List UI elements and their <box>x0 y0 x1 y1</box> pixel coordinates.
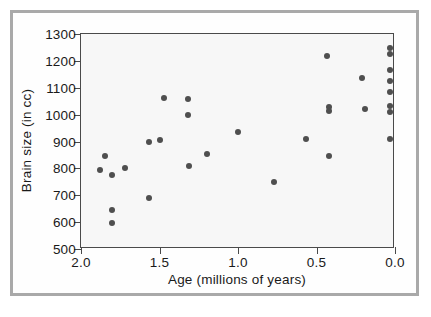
data-point <box>186 163 192 169</box>
y-axis-tick-label: 1000 <box>45 107 76 122</box>
y-axis-tick-label: 800 <box>53 161 76 176</box>
data-point <box>109 220 115 226</box>
data-point <box>204 151 210 157</box>
data-point <box>387 78 393 84</box>
data-point <box>185 96 191 102</box>
data-point <box>146 139 152 145</box>
y-axis-title: Brain size (in cc) <box>18 33 36 248</box>
y-axis-tick-label: 1100 <box>46 80 76 95</box>
data-point <box>362 106 368 112</box>
data-point <box>109 172 115 178</box>
x-axis-tick-label: 0.0 <box>385 255 404 270</box>
data-point <box>387 136 393 142</box>
data-point <box>387 109 393 115</box>
data-point <box>235 129 241 135</box>
data-point <box>157 137 163 143</box>
x-axis-tick <box>160 247 161 254</box>
data-point <box>303 136 309 142</box>
data-point <box>271 179 277 185</box>
y-axis-tick-label: 900 <box>53 134 76 149</box>
data-point <box>122 165 128 171</box>
data-points-layer <box>81 34 393 247</box>
data-point <box>97 167 103 173</box>
y-axis-title-text: Brain size (in cc) <box>20 89 35 192</box>
data-point <box>359 75 365 81</box>
y-axis-tick-label: 1200 <box>45 53 76 68</box>
x-axis-tick-label: 1.0 <box>228 255 247 270</box>
scatter-plot-figure: Brain size (in cc) 500600700800900100011… <box>0 0 431 317</box>
data-point <box>326 153 332 159</box>
data-point <box>387 89 393 95</box>
y-axis-tick-label: 700 <box>53 188 76 203</box>
x-axis-tick-label: 1.5 <box>150 255 169 270</box>
y-axis-tick-label: 600 <box>53 215 76 230</box>
data-point <box>109 207 115 213</box>
x-axis-tick-label: 2.0 <box>71 255 90 270</box>
data-point <box>387 67 393 73</box>
data-point <box>161 95 167 101</box>
data-point <box>146 195 152 201</box>
data-point <box>102 153 108 159</box>
x-axis-title: Age (millions of years) <box>80 272 394 287</box>
y-axis-tick-label: 1300 <box>45 27 76 42</box>
x-axis-tick <box>81 247 82 254</box>
x-axis-tick <box>238 247 239 254</box>
data-point <box>324 53 330 59</box>
data-point <box>326 108 332 114</box>
data-point <box>185 112 191 118</box>
x-axis-tick <box>317 247 318 254</box>
plot-area: 5006007008009001000110012001300 2.01.51.… <box>80 33 394 248</box>
data-point <box>387 51 393 57</box>
x-axis-tick-label: 0.5 <box>307 255 326 270</box>
x-axis-tick <box>395 247 396 254</box>
